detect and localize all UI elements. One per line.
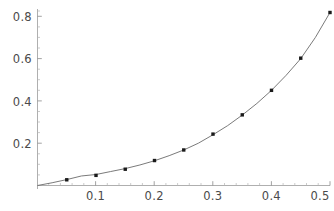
x-tick-label-0.5: 0.5 xyxy=(307,189,333,203)
plot-area xyxy=(0,0,334,211)
data-point-marker xyxy=(182,148,185,151)
x-tick-label-0.4: 0.4 xyxy=(258,189,284,203)
data-points xyxy=(65,11,332,182)
fitted-curve xyxy=(38,12,331,185)
data-point-marker xyxy=(124,168,127,171)
x-tick-label-0.2: 0.2 xyxy=(141,189,167,203)
data-point-marker xyxy=(94,174,97,177)
data-point-marker xyxy=(65,178,68,181)
data-point-marker xyxy=(299,56,302,59)
data-point-marker xyxy=(270,89,273,92)
y-tick-label-0.6: 0.6 xyxy=(6,52,32,66)
data-point-marker xyxy=(328,11,331,14)
y-tick-label-0.8: 0.8 xyxy=(6,10,32,24)
data-point-marker xyxy=(241,113,244,116)
y-tick-label-0.2: 0.2 xyxy=(6,137,32,151)
data-point-marker xyxy=(211,132,214,135)
x-tick-label-0.1: 0.1 xyxy=(83,189,109,203)
x-tick-label-0.3: 0.3 xyxy=(200,189,226,203)
data-point-marker xyxy=(153,159,156,162)
chart-figure: 0.2 0.4 0.6 0.8 0.1 0.2 0.3 0.4 0.5 xyxy=(0,0,334,211)
y-tick-label-0.4: 0.4 xyxy=(6,95,32,109)
